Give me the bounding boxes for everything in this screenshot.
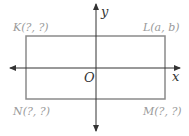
x-axis-label: x [172,69,180,84]
vertex-l-label: L(a, b) [142,21,179,34]
vertex-m-label: M(?, ?) [142,105,182,118]
vertex-n-label: N(?, ?) [12,105,50,118]
y-axis-label: y [100,4,109,19]
origin-label: O [84,70,95,85]
vertex-k-label: K(?, ?) [12,21,49,34]
coordinate-diagram: y x O K(?, ?) L(a, b) N(?, ?) M(?, ?) [0,0,189,136]
